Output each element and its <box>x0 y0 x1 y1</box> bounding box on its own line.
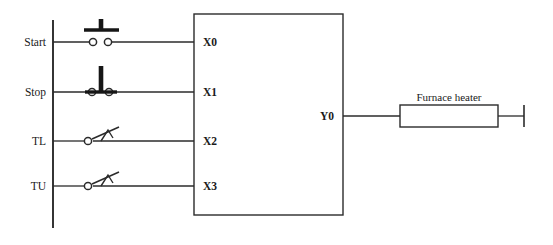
terminal-label-x1: X1 <box>203 86 217 98</box>
terminal-label-x2: X2 <box>203 135 217 147</box>
terminal-label-x0: X0 <box>203 36 217 48</box>
wiring-canvas: Start Stop TL TU X0 X1 X2 X3 Y0 Furnace … <box>0 0 553 245</box>
plc-wiring-diagram: Start Stop TL TU X0 X1 X2 X3 Y0 Furnace … <box>0 0 553 245</box>
terminal-label-y0: Y0 <box>320 110 334 122</box>
start-contact-right-icon <box>104 38 111 45</box>
tu-temperature-flag-icon <box>101 175 113 186</box>
input-label-stop: Stop <box>25 86 46 99</box>
furnace-heater-load-outline <box>400 105 498 127</box>
furnace-heater-label: Furnace heater <box>416 91 481 103</box>
input-label-tu: TU <box>31 180 47 192</box>
tu-pivot-contact-icon <box>84 182 91 189</box>
tl-temperature-flag-icon <box>101 130 113 141</box>
input-label-tl: TL <box>32 135 46 147</box>
input-label-start: Start <box>24 36 47 48</box>
start-contact-left-icon <box>89 38 96 45</box>
terminal-label-x3: X3 <box>203 180 217 192</box>
tl-pivot-contact-icon <box>84 137 91 144</box>
